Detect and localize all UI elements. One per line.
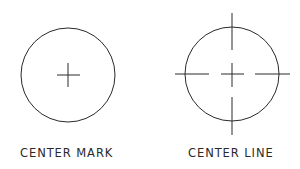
center-mark-figure (21, 28, 115, 122)
drawing-canvas (0, 0, 300, 169)
center-line-label: CENTER LINE (188, 145, 274, 160)
center-line-figure (175, 13, 290, 135)
center-mark-label: CENTER MARK (20, 145, 113, 160)
